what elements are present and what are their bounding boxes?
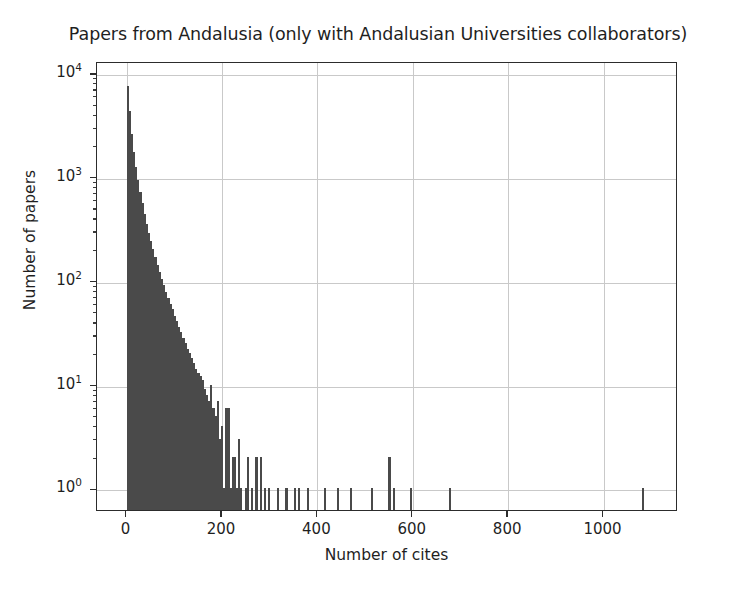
y-tick-minor [93,354,97,355]
y-tick-label: 104 [2,63,82,81]
histogram-bar [307,488,309,510]
histogram-bar [350,488,352,510]
histogram-bar [264,488,266,510]
y-tick-minor [93,312,97,313]
y-tick-minor [93,291,97,292]
histogram-bar [277,488,279,510]
histogram-bar [255,457,257,510]
histogram-bar [410,488,412,510]
y-tick-major [90,489,96,490]
y-tick-minor [93,231,97,232]
y-tick-minor [93,115,97,116]
y-tick-minor [93,96,97,97]
y-tick-major [90,177,96,178]
y-tick-label: 103 [2,167,82,185]
histogram-bars [97,63,676,510]
y-tick-label: 100 [2,478,82,496]
histogram-bar [294,488,296,510]
histogram-bar [240,488,242,510]
chart-figure: Papers from Andalusia (only with Andalus… [0,0,756,593]
histogram-bar [324,488,326,510]
y-tick-minor [93,286,97,287]
histogram-bar [268,488,270,510]
y-tick-minor [93,304,97,305]
histogram-bar [337,488,339,510]
histogram-bar [388,457,390,510]
x-tick-label: 600 [372,520,452,538]
y-tick-label: 102 [2,271,82,289]
histogram-bar [449,488,451,510]
histogram-bar [642,488,644,510]
histogram-bar [247,457,249,510]
histogram-bar [285,488,287,510]
x-tick-major [506,511,507,517]
x-axis-ticks: 02004006008001000 [96,511,677,551]
y-tick-minor [93,218,97,219]
y-tick-minor [93,200,97,201]
y-tick-minor [93,401,97,402]
x-tick-major [602,511,603,517]
x-tick-label: 0 [86,520,166,538]
y-tick-minor [93,408,97,409]
histogram-bar [260,457,262,510]
y-tick-minor [93,297,97,298]
x-tick-label: 1000 [563,520,643,538]
y-tick-minor [93,105,97,106]
y-tick-minor [93,182,97,183]
y-tick-minor [93,187,97,188]
y-tick-major [90,385,96,386]
y-tick-minor [93,83,97,84]
y-tick-minor [93,146,97,147]
y-tick-major [90,73,96,74]
y-tick-minor [93,426,97,427]
histogram-bar [298,488,300,510]
y-tick-minor [93,322,97,323]
y-tick-minor [93,250,97,251]
x-axis-label: Number of cites [96,546,677,564]
histogram-bar [371,488,373,510]
chart-title: Papers from Andalusia (only with Andalus… [0,24,756,44]
y-tick-minor [93,395,97,396]
x-tick-label: 400 [276,520,356,538]
x-tick-label: 200 [181,520,261,538]
y-tick-label: 101 [2,375,82,393]
histogram-bar [393,488,395,510]
x-tick-major [411,511,412,517]
histogram-bar [251,488,253,510]
y-tick-minor [93,416,97,417]
y-tick-minor [93,439,97,440]
y-tick-minor [93,335,97,336]
y-axis-label: Number of papers [21,140,39,340]
y-tick-major [90,281,96,282]
x-tick-major [220,511,221,517]
y-tick-minor [93,193,97,194]
y-tick-minor [93,208,97,209]
y-tick-minor [93,78,97,79]
y-tick-minor [93,390,97,391]
x-tick-label: 800 [467,520,547,538]
y-tick-minor [93,89,97,90]
y-tick-minor [93,458,97,459]
x-tick-major [316,511,317,517]
plot-area [96,62,677,511]
y-tick-minor [93,128,97,129]
y-axis-ticks: 100101102103104 [0,62,96,511]
x-tick-major [125,511,126,517]
